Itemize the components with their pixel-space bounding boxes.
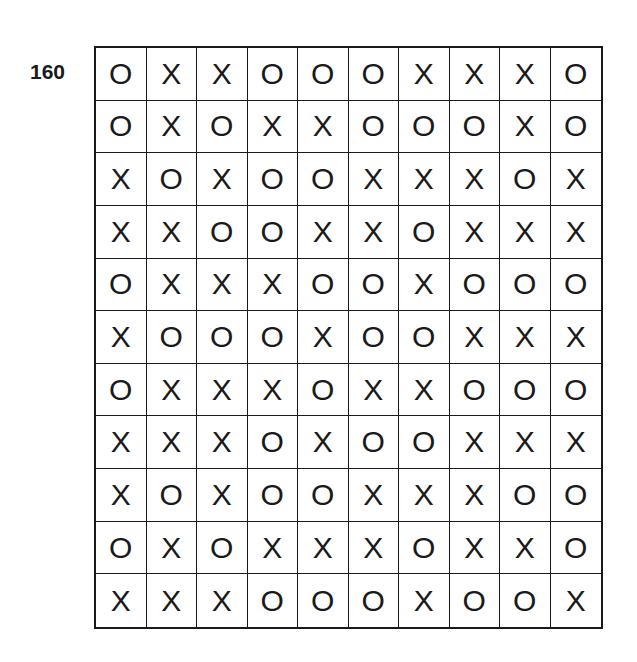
grid-cell: X <box>96 469 147 522</box>
grid-cell: X <box>147 416 198 469</box>
grid-cell: X <box>147 259 198 312</box>
grid-cell: X <box>197 364 248 417</box>
grid-cell: O <box>96 101 147 154</box>
grid-cell: O <box>349 574 400 627</box>
grid-cell: X <box>349 364 400 417</box>
grid-cell: X <box>450 311 501 364</box>
grid-cell: O <box>248 416 299 469</box>
grid-cell: O <box>248 469 299 522</box>
grid-cell: X <box>450 416 501 469</box>
grid-cell: O <box>500 364 551 417</box>
grid-cell: X <box>197 469 248 522</box>
grid-cell: X <box>147 574 198 627</box>
grid-cell: X <box>147 206 198 259</box>
grid-cell: O <box>399 416 450 469</box>
grid-cell: O <box>248 311 299 364</box>
grid-cell: X <box>298 416 349 469</box>
grid-cell: O <box>298 153 349 206</box>
grid-cell: O <box>96 364 147 417</box>
grid-cell: X <box>197 574 248 627</box>
grid-cell: O <box>551 469 602 522</box>
grid-cell: X <box>399 259 450 312</box>
grid-cell: X <box>500 416 551 469</box>
grid-cell: O <box>197 311 248 364</box>
grid-cell: X <box>450 48 501 101</box>
grid-cell: X <box>96 311 147 364</box>
grid-cell: X <box>197 416 248 469</box>
grid-cell: O <box>399 522 450 575</box>
grid-cell: O <box>551 259 602 312</box>
grid-cell: O <box>551 48 602 101</box>
grid-cell: O <box>147 311 198 364</box>
grid-cell: O <box>197 101 248 154</box>
xo-grid: OXXOOOXXXOOXOXXOOOXOXOXOOXXXOXXXOOXXOXXX… <box>94 46 603 629</box>
grid-cell: X <box>450 522 501 575</box>
grid-cell: O <box>500 469 551 522</box>
grid-cell: X <box>349 153 400 206</box>
grid-cell: O <box>349 416 400 469</box>
grid-cell: O <box>399 311 450 364</box>
grid-cell: O <box>298 364 349 417</box>
grid-cell: O <box>298 259 349 312</box>
grid-cell: O <box>450 259 501 312</box>
grid-cell: X <box>248 364 299 417</box>
grid-cell: X <box>399 364 450 417</box>
grid-cell: X <box>551 153 602 206</box>
grid-cell: O <box>96 522 147 575</box>
grid-cell: O <box>147 469 198 522</box>
grid-cell: X <box>197 48 248 101</box>
grid-cell: X <box>551 311 602 364</box>
grid-cell: X <box>248 259 299 312</box>
grid-cell: X <box>500 206 551 259</box>
grid-cell: O <box>450 364 501 417</box>
grid-cell: O <box>147 153 198 206</box>
grid-cell: O <box>551 101 602 154</box>
grid-cell: X <box>399 574 450 627</box>
grid-cell: O <box>450 574 501 627</box>
grid-cell: O <box>399 206 450 259</box>
grid-cell: X <box>450 469 501 522</box>
grid-cell: X <box>298 206 349 259</box>
grid-cell: X <box>298 101 349 154</box>
grid-cell: X <box>399 48 450 101</box>
grid-cell: O <box>298 574 349 627</box>
grid-cell: O <box>96 259 147 312</box>
grid-cell: X <box>399 469 450 522</box>
grid-cell: X <box>450 153 501 206</box>
grid-cell: X <box>147 101 198 154</box>
grid-cell: O <box>248 48 299 101</box>
grid-cell: X <box>551 416 602 469</box>
puzzle-number: 160 <box>30 60 65 84</box>
grid-cell: X <box>500 522 551 575</box>
grid-cell: O <box>500 259 551 312</box>
grid-cell: O <box>500 153 551 206</box>
grid-cell: X <box>248 101 299 154</box>
grid-cell: O <box>197 206 248 259</box>
grid-cell: X <box>96 206 147 259</box>
grid-cell: O <box>349 101 400 154</box>
grid-cell: X <box>197 153 248 206</box>
grid-cell: O <box>551 364 602 417</box>
grid-cell: X <box>500 101 551 154</box>
grid-cell: X <box>349 469 400 522</box>
grid-cell: O <box>349 259 400 312</box>
grid-cell: O <box>551 522 602 575</box>
grid-cell: X <box>551 574 602 627</box>
grid-cell: O <box>399 101 450 154</box>
grid-cell: O <box>197 522 248 575</box>
grid-cell: O <box>298 48 349 101</box>
grid-cell: X <box>450 206 501 259</box>
grid-cell: X <box>500 311 551 364</box>
grid-cell: X <box>96 574 147 627</box>
grid-cell: O <box>248 574 299 627</box>
grid-cell: X <box>298 311 349 364</box>
grid-cell: X <box>248 522 299 575</box>
grid-cell: O <box>450 101 501 154</box>
grid-cell: X <box>399 153 450 206</box>
grid-cell: O <box>298 469 349 522</box>
grid-cell: O <box>96 48 147 101</box>
grid-cell: X <box>147 522 198 575</box>
grid-cell: X <box>500 48 551 101</box>
grid-cell: X <box>349 522 400 575</box>
grid-cell: O <box>500 574 551 627</box>
